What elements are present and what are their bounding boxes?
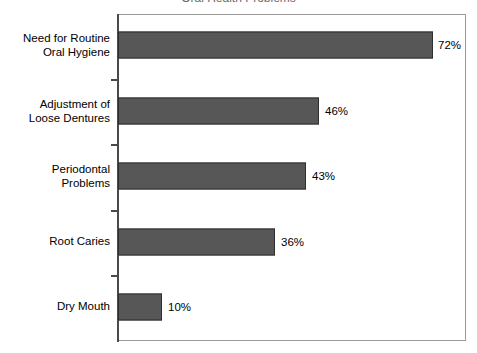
bar (118, 163, 306, 190)
bar-row: Need for Routine Oral Hygiene 72% (0, 12, 477, 78)
bar-value-label: 43% (312, 170, 335, 182)
bar (118, 98, 319, 125)
bar (118, 294, 162, 321)
category-label: Dry Mouth (0, 300, 110, 314)
bar-value-label: 36% (281, 236, 304, 248)
bar-row: Periodontal Problems 43% (0, 143, 477, 209)
category-label: Root Caries (0, 235, 110, 249)
bar-row: Adjustment of Loose Dentures 46% (0, 78, 477, 144)
category-label: Need for Routine Oral Hygiene (0, 32, 110, 59)
category-label: Periodontal Problems (0, 163, 110, 190)
bar-value-label: 10% (168, 301, 191, 313)
bar (118, 229, 275, 256)
chart-title-remnant: Oral Health Problems (0, 0, 477, 6)
bar-value-label: 46% (325, 105, 348, 117)
bar-row: Root Caries 36% (0, 209, 477, 275)
category-label: Adjustment of Loose Dentures (0, 98, 110, 125)
chart-title-text: Oral Health Problems (0, 0, 477, 5)
bar-value-label: 72% (438, 39, 461, 51)
bar-row: Dry Mouth 10% (0, 274, 477, 340)
bar-chart: Oral Health Problems Need for Routine Or… (0, 0, 477, 353)
bar (118, 32, 433, 59)
